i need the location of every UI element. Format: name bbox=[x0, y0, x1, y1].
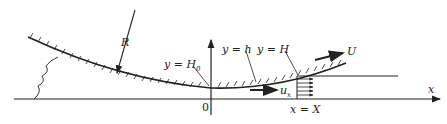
y-H0-label: y = H0 bbox=[163, 58, 201, 73]
x-eq-X-label: x = X bbox=[290, 103, 321, 116]
leader-lines bbox=[193, 51, 298, 86]
y-h-label: y = h bbox=[221, 43, 252, 56]
x-axis-label: x bbox=[428, 83, 435, 96]
break-line bbox=[34, 57, 58, 99]
radius-label: R bbox=[120, 36, 129, 49]
y-H-label: y = H bbox=[256, 43, 289, 56]
velocity-ux-label: ux bbox=[280, 84, 291, 99]
velocity-U-label: U bbox=[347, 45, 357, 58]
velocity-profile bbox=[297, 76, 313, 99]
lubrication-diagram: R U ux y = H0 y = h y = H 0 x x = X bbox=[0, 0, 447, 124]
surface-velocity-arrow bbox=[315, 53, 343, 60]
origin-label: 0 bbox=[202, 101, 209, 114]
